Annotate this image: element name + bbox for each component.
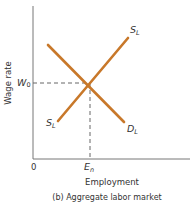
demand-label: DL — [127, 123, 138, 136]
x-tick-en: En — [84, 161, 94, 174]
y-axis-label: Wage rate — [3, 61, 13, 105]
x-tick-origin: 0 — [31, 162, 36, 172]
supply-curve — [58, 38, 128, 121]
aggregate-labor-market-chart: SL SL DL W0 0 En Wage rate Employment (b… — [0, 0, 195, 204]
supply-label-bottom: SL — [46, 117, 56, 130]
chart-caption: (b) Aggregate labor market — [52, 193, 161, 202]
y-tick-w0: W0 — [17, 77, 31, 89]
supply-label-top: SL — [130, 24, 140, 37]
x-axis-label: Employment — [85, 177, 140, 187]
